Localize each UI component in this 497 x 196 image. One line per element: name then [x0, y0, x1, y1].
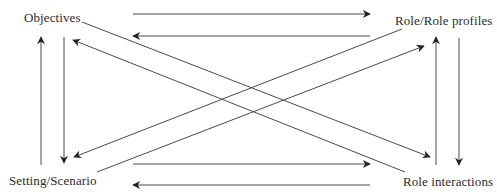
node-setting-scenario: Setting/Scenario [9, 173, 97, 188]
arrow-role-profiles-to-setting-scenario [74, 29, 402, 157]
diagram-edges [0, 0, 497, 196]
node-role-profiles: Role/Role profiles [395, 13, 492, 28]
arrow-objectives-to-role-interactions [82, 22, 430, 157]
node-role-interactions: Role interactions [403, 174, 493, 189]
relationship-diagram: Objectives Role/Role profiles Setting/Sc… [0, 0, 497, 196]
arrow-setting-scenario-to-role-profiles [97, 46, 424, 172]
arrow-role-interactions-to-objectives [73, 40, 405, 172]
node-objectives: Objectives [24, 10, 81, 25]
